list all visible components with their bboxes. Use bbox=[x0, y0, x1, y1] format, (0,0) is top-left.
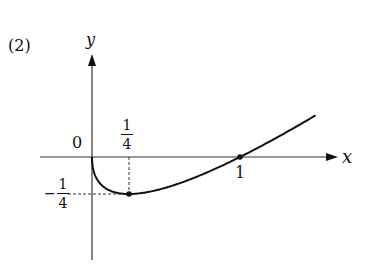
x-tick-quarter: 1 4 bbox=[121, 118, 133, 151]
x-axis-label: x bbox=[342, 148, 352, 166]
min-point bbox=[126, 191, 132, 197]
origin-label: 0 bbox=[72, 135, 82, 151]
y-tick-neg-quarter: 1 4 bbox=[57, 177, 69, 210]
neg-sign: − bbox=[44, 186, 56, 200]
x-tick-one: 1 bbox=[235, 165, 245, 181]
x-axis-arrow-icon bbox=[326, 153, 338, 161]
graph bbox=[0, 0, 366, 271]
intercept-point bbox=[237, 154, 243, 160]
y-axis-arrow-icon bbox=[88, 54, 96, 66]
y-axis-label: y bbox=[86, 32, 95, 48]
